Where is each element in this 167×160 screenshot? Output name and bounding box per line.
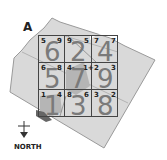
cell-number: 7 bbox=[70, 64, 87, 94]
cell-number: 1 bbox=[44, 91, 61, 121]
parcel-map: 5 9 6 9 5 2 7 7 4 6 8 5 4- 1+ 7 2 3 9 1 … bbox=[0, 0, 167, 160]
north-arrow-icon bbox=[18, 121, 30, 138]
diagram-label: A bbox=[23, 20, 33, 34]
cell-number: 4 bbox=[97, 37, 114, 67]
cell-number: 8 bbox=[97, 91, 114, 121]
cell-number: 5 bbox=[44, 64, 61, 94]
cell-number: 6 bbox=[44, 37, 61, 67]
cell-number: 9 bbox=[97, 64, 114, 94]
cell-number: 2 bbox=[70, 37, 87, 67]
cell-number: 3 bbox=[70, 91, 87, 121]
north-label: NORTH bbox=[14, 143, 42, 151]
